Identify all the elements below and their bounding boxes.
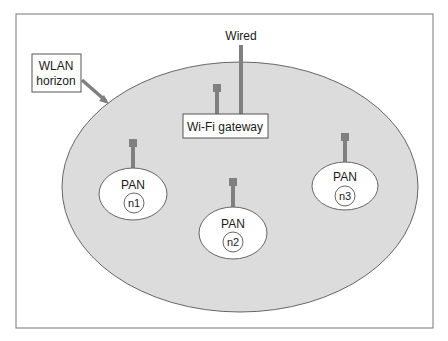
antenna-post: [231, 186, 235, 208]
wired-label: Wired: [225, 29, 256, 43]
gateway-antenna-icon: [213, 84, 221, 92]
wifi-gateway-label: Wi-Fi gateway: [187, 120, 263, 134]
pan-label: PAN: [121, 178, 145, 192]
antenna-icon: [229, 178, 237, 186]
node-label: n2: [227, 236, 239, 248]
antenna-post: [343, 141, 347, 163]
gateway-antenna-post: [215, 92, 219, 114]
wlan-label: WLAN: [39, 59, 74, 73]
node-label: n1: [128, 197, 140, 209]
node-label: n3: [339, 190, 351, 202]
wlan-diagram: Wired WLAN horizon Wi-Fi gateway PAN n1 …: [0, 0, 448, 341]
pan-label: PAN: [221, 217, 245, 231]
antenna-post: [131, 147, 135, 169]
horizon-label: horizon: [36, 74, 75, 88]
antenna-icon: [341, 133, 349, 141]
antenna-icon: [129, 139, 137, 147]
pan-label: PAN: [333, 170, 357, 184]
